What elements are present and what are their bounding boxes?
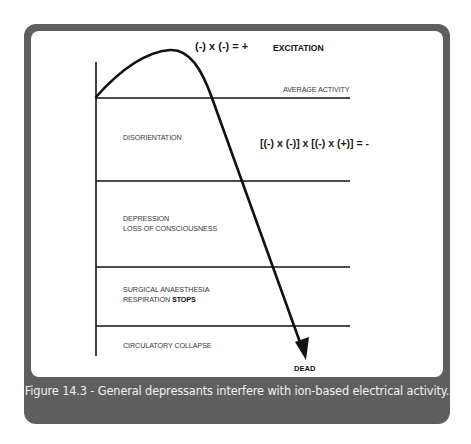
zone-depression-line2: LOSS OF CONSCIOUSNESS	[123, 224, 217, 234]
zone-surgical-line2-prefix: RESPIRATION	[123, 295, 172, 304]
zone-surgical-line2: RESPIRATION STOPS	[123, 295, 209, 305]
zone-surgical-label: SURGICAL ANAESTHESIA RESPIRATION STOPS	[123, 285, 209, 305]
depression-formula: [(-) x (-)] x [(-) x (+)] = -	[260, 137, 369, 149]
excitation-label: EXCITATION	[273, 43, 324, 53]
excitation-formula: (-) x (-) = +	[195, 40, 248, 52]
zone-circulatory-label: CIRCULATORY COLLAPSE	[123, 341, 212, 351]
average-activity-label: AVERAGE ACTIVITY	[283, 85, 350, 95]
zone-surgical-line1: SURGICAL ANAESTHESIA	[123, 285, 209, 295]
activity-diagram	[0, 0, 471, 444]
dead-label: DEAD	[294, 364, 316, 373]
zone-disorientation-label: DISORIENTATION	[123, 133, 182, 143]
zone-depression-line1: DEPRESSION	[123, 214, 217, 224]
figure-caption: Figure 14.3 - General depressants interf…	[24, 384, 450, 398]
arrow-head-icon	[295, 337, 309, 360]
zone-depression-label: DEPRESSION LOSS OF CONSCIOUSNESS	[123, 214, 217, 234]
zone-surgical-line2-bold: STOPS	[172, 295, 196, 304]
